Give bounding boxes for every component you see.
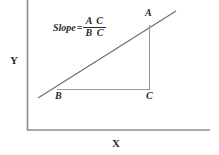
slope-formula: Slope = A C B C: [53, 16, 106, 38]
slope-diagram-figure: Y X A B C Slope = A C B C: [0, 0, 219, 155]
slope-formula-numerator: A C: [84, 16, 106, 27]
y-axis-label: Y: [10, 55, 18, 66]
point-label-c: C: [146, 91, 153, 101]
x-axis-label: X: [112, 138, 120, 149]
point-label-a: A: [145, 8, 152, 18]
diagram-canvas: [0, 0, 219, 155]
slope-formula-equals: =: [77, 22, 83, 33]
slope-formula-denominator: B C: [83, 28, 106, 39]
slope-formula-lhs: Slope: [53, 22, 76, 33]
slope-formula-fraction: A C B C: [83, 16, 106, 38]
point-label-b: B: [55, 91, 62, 101]
